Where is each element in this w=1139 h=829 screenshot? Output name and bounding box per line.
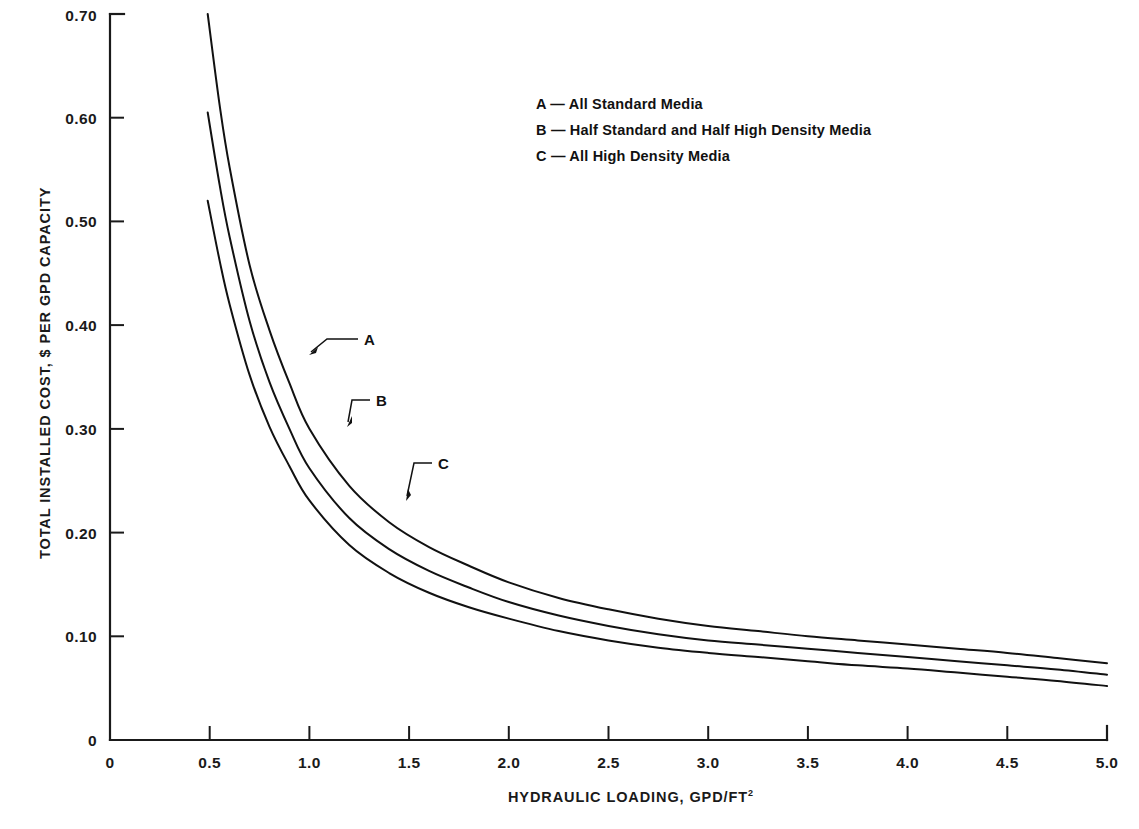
data-curves-group (208, 14, 1107, 686)
x-axis-title: HYDRAULIC LOADING, GPD/FT2 (508, 788, 754, 805)
x-tick-labels: 0 0.5 1.0 1.5 2.0 2.5 3.0 3.5 4.0 4.5 5.… (105, 754, 1118, 771)
y-tick-label-0.10: 0.10 (65, 628, 97, 645)
y-tick-label-0.40: 0.40 (65, 317, 97, 334)
y-tick-label-0.30: 0.30 (65, 421, 97, 438)
y-tick-labels: 0 0.10 0.20 0.30 0.40 0.50 0.60 0.70 (65, 7, 97, 749)
x-axis-title-superscript: 2 (748, 788, 754, 798)
annotation-B-label: B (376, 392, 387, 409)
y-tick-label-0.70: 0.70 (65, 7, 97, 24)
x-tick-label-4.5: 4.5 (996, 754, 1019, 771)
annotation-A-leader (311, 339, 358, 352)
x-tick-label-1.5: 1.5 (398, 754, 421, 771)
annotation-A: A (309, 331, 375, 355)
x-tick-label-2.0: 2.0 (497, 754, 520, 771)
y-tick-label-0: 0 (88, 732, 97, 749)
x-tick-label-3.5: 3.5 (797, 754, 820, 771)
x-tick-label-5.0: 5.0 (1096, 754, 1119, 771)
x-ticks-group (110, 726, 1007, 740)
x-tick-label-4.0: 4.0 (896, 754, 919, 771)
chart-canvas: 0 0.10 0.20 0.30 0.40 0.50 0.60 0.70 0 0… (0, 0, 1139, 829)
annotation-B: B (347, 392, 387, 427)
legend-item-C: C — All High Density Media (536, 148, 731, 164)
y-tick-label-0.60: 0.60 (65, 110, 97, 127)
annotation-A-label: A (364, 331, 375, 348)
annotation-C-leader (407, 463, 432, 496)
curve-C (208, 201, 1107, 686)
annotation-C: C (406, 455, 449, 501)
legend: A — All Standard Media B — Half Standard… (536, 96, 872, 164)
curve-B (208, 113, 1107, 675)
legend-item-A: A — All Standard Media (536, 96, 704, 112)
x-axis-title-text: HYDRAULIC LOADING, GPD/FT (508, 789, 748, 805)
annotation-A-arrowhead (309, 347, 318, 355)
annotation-C-label: C (438, 455, 449, 472)
y-ticks-group (110, 118, 124, 740)
x-tick-label-0.5: 0.5 (198, 754, 221, 771)
y-tick-label-0.50: 0.50 (65, 213, 97, 230)
legend-item-B: B — Half Standard and Half High Density … (536, 122, 872, 138)
y-axis-title: TOTAL INSTALLED COST, $ PER GPD CAPACITY (37, 187, 53, 559)
x-tick-label-1.0: 1.0 (298, 754, 321, 771)
x-axis-title-group: HYDRAULIC LOADING, GPD/FT2 (508, 788, 754, 805)
chart-figure: 0 0.10 0.20 0.30 0.40 0.50 0.60 0.70 0 0… (0, 0, 1139, 829)
x-tick-label-3.0: 3.0 (697, 754, 720, 771)
y-tick-label-0.20: 0.20 (65, 525, 97, 542)
x-tick-label-0: 0 (105, 754, 114, 771)
x-tick-label-2.5: 2.5 (597, 754, 620, 771)
